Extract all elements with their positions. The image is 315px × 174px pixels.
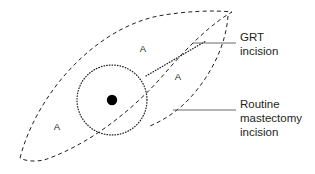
grt-inner-boundary-arc	[150, 16, 228, 126]
grt-incision-label-line-1: GRT	[240, 31, 264, 43]
routine-mastectomy-label-line-3: incision	[240, 126, 278, 138]
mastectomy-incision-figure: A A A GRT incision Routine mastectomy in…	[0, 0, 315, 174]
region-label-right: A	[175, 71, 182, 82]
nipple-dot	[107, 95, 117, 105]
routine-mastectomy-label-line-2: mastectomy	[240, 112, 302, 124]
region-label-left: A	[54, 121, 61, 132]
grt-incision-label-line-2: incision	[240, 45, 278, 57]
region-label-upper: A	[140, 43, 147, 54]
routine-mastectomy-incision-outline	[20, 11, 232, 161]
diagram-canvas: A A A GRT incision Routine mastectomy in…	[0, 0, 315, 174]
routine-mastectomy-label-line-1: Routine	[240, 98, 280, 110]
